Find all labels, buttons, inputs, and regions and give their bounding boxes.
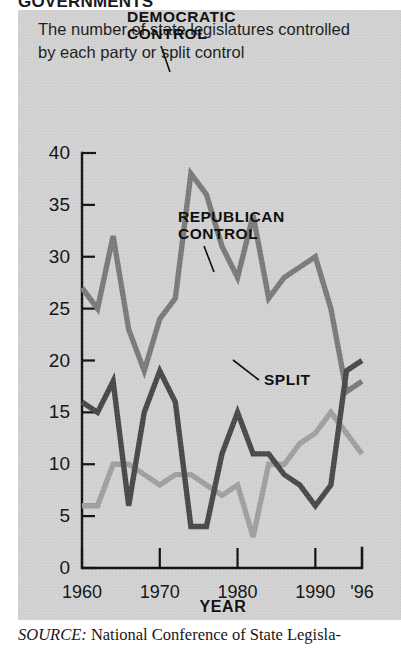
x-tick-label: 1970 bbox=[140, 582, 180, 602]
y-tick-label: 5 bbox=[59, 505, 70, 526]
section-kicker: GOVERNMENTS bbox=[18, 0, 401, 10]
x-axis-title: YEAR bbox=[200, 598, 247, 615]
annotation-split-leader bbox=[233, 360, 259, 380]
annotation-split-label: SPLIT bbox=[264, 371, 310, 388]
series-republican-control bbox=[82, 361, 362, 527]
y-tick-label: 0 bbox=[59, 557, 70, 578]
chart-y-ticks bbox=[82, 205, 95, 568]
source-text: National Conference of State Legisla- bbox=[91, 625, 341, 644]
annotation-democratic: DEMOCRATIC CONTROL bbox=[127, 10, 236, 72]
source-label: SOURCE: bbox=[18, 625, 87, 644]
y-tick-label: 15 bbox=[49, 401, 70, 422]
annotation-republican-line1: REPUBLICAN bbox=[178, 208, 285, 225]
y-tick-label: 20 bbox=[49, 350, 70, 371]
chart-y-tick-labels: 0510152025303540 bbox=[49, 142, 70, 578]
x-tick-label: 1990 bbox=[295, 582, 335, 602]
chart-plot-area: 0510152025303540 1960197019801990'96 YEA… bbox=[18, 10, 401, 620]
series-democratic-control bbox=[82, 174, 362, 392]
y-tick-label: 25 bbox=[49, 298, 70, 319]
y-tick-label: 40 bbox=[49, 142, 70, 163]
source-note: SOURCE: National Conference of State Leg… bbox=[18, 624, 401, 658]
y-tick-label: 35 bbox=[49, 194, 70, 215]
annotation-republican-leader bbox=[204, 246, 214, 272]
y-tick-label: 10 bbox=[49, 453, 70, 474]
annotation-democratic-line2: CONTROL bbox=[127, 25, 207, 42]
chart-x-ticks bbox=[82, 548, 362, 568]
x-tick-label: '96 bbox=[350, 582, 373, 602]
annotation-democratic-line1: DEMOCRATIC bbox=[127, 10, 236, 25]
x-tick-label: 1960 bbox=[62, 582, 102, 602]
chart-panel: The number of state legislatures control… bbox=[18, 10, 401, 620]
annotation-split: SPLIT bbox=[233, 360, 310, 388]
y-tick-label: 30 bbox=[49, 246, 70, 267]
annotation-democratic-leader bbox=[161, 46, 170, 72]
line-chart-svg: 0510152025303540 1960197019801990'96 YEA… bbox=[18, 10, 401, 620]
annotation-republican-line2: CONTROL bbox=[178, 225, 258, 242]
